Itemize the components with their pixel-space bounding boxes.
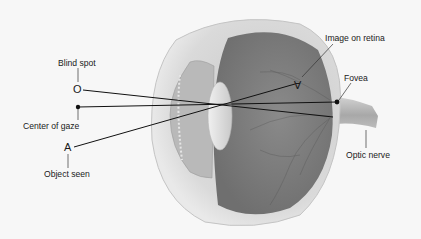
object-seen-label: Object seen	[44, 170, 90, 179]
retina-image-symbol: A	[294, 79, 301, 90]
optic-nerve-label: Optic nerve	[346, 151, 390, 160]
fovea-dot	[335, 100, 340, 105]
image-on-retina-label: Image on retina	[325, 34, 385, 43]
fovea-label: Fovea	[344, 74, 368, 83]
lens	[208, 82, 232, 150]
eye-diagram: O A A Blind spot Center of gaze Object s…	[0, 0, 421, 239]
blind-spot-symbol: O	[73, 84, 82, 95]
center-of-gaze-dot	[76, 105, 80, 109]
center-of-gaze-label: Center of gaze	[23, 122, 79, 131]
object-symbol: A	[64, 142, 71, 153]
blind-spot-label: Blind spot	[58, 59, 96, 68]
